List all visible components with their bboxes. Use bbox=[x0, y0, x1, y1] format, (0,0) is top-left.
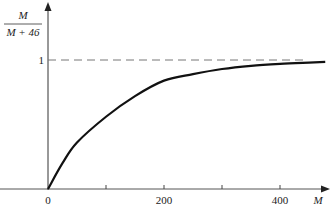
x-tick-label: 400 bbox=[272, 194, 289, 206]
data-curve bbox=[48, 62, 325, 189]
y-label-denominator: M + 46 bbox=[5, 26, 40, 38]
y-label-numerator: M bbox=[17, 9, 28, 21]
y-axis-arrow-icon bbox=[45, 2, 52, 11]
x-axis-arrow-icon bbox=[321, 186, 330, 193]
x-ticks: 0200400 bbox=[45, 185, 289, 206]
x-tick-label: 0 bbox=[45, 194, 51, 206]
y-axis-label: M M + 46 bbox=[4, 9, 42, 38]
y-tick-label: 1 bbox=[39, 54, 45, 66]
x-tick-label: 200 bbox=[156, 194, 173, 206]
axes bbox=[0, 2, 330, 193]
chart: 0200400 1 M M + 46 M bbox=[0, 0, 330, 215]
x-axis-label: M bbox=[312, 194, 323, 206]
